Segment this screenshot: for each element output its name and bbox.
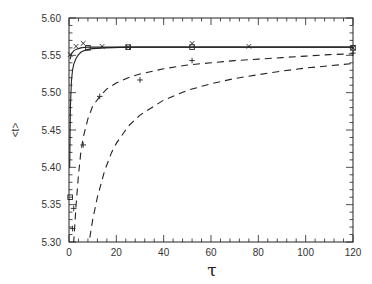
y-tick-label: 5.55: [42, 50, 62, 61]
x-marker: [247, 44, 252, 49]
x-marker: [74, 44, 79, 49]
y-tick-label: 5.60: [42, 13, 62, 24]
x-tick-label: 60: [205, 247, 217, 258]
solid-curve: [70, 47, 353, 167]
x-tick-labels: 020406080100120: [66, 247, 362, 258]
plot-axes: [69, 18, 353, 242]
y-tick-label: 5.40: [42, 162, 62, 173]
x-tick-label: 0: [66, 247, 72, 258]
axis-ticks: [69, 18, 353, 242]
y-axis-title: <t>: [10, 123, 21, 138]
y-tick-label: 5.30: [42, 237, 62, 248]
x-tick-label: 40: [158, 247, 170, 258]
x-tick-label: 100: [297, 247, 314, 258]
data-curves: [70, 47, 353, 279]
chart: 020406080100120 5.305.355.405.455.505.55…: [0, 0, 372, 284]
dashed-curve: [71, 54, 353, 279]
y-tick-label: 5.45: [42, 125, 62, 136]
plus-marker: [137, 77, 143, 83]
x-tick-label: 120: [345, 247, 362, 258]
y-tick-label: 5.35: [42, 199, 62, 210]
x-tick-label: 80: [253, 247, 265, 258]
y-tick-label: 5.50: [42, 87, 62, 98]
x-marker: [81, 41, 86, 46]
plot-frame: [69, 18, 353, 242]
x-tick-label: 20: [111, 247, 123, 258]
x-axis-title: τ: [207, 260, 216, 280]
solid-curve: [70, 47, 353, 59]
dashed-curve: [88, 64, 353, 250]
y-tick-labels: 5.305.355.405.455.505.555.60: [42, 13, 62, 248]
data-markers: [68, 41, 356, 231]
plus-marker: [189, 58, 195, 64]
